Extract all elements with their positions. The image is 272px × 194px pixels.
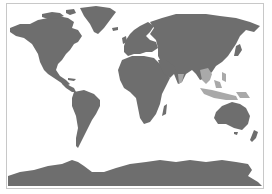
tasmania: [234, 132, 238, 135]
antarctica: [8, 160, 262, 186]
british-isles: [112, 27, 127, 44]
arctic-islands: [42, 9, 76, 19]
greenland: [80, 6, 116, 34]
south-america: [72, 90, 100, 148]
world-map: [0, 0, 272, 194]
highlight-new-guinea: [236, 92, 250, 98]
japan: [234, 44, 242, 56]
europe: [124, 22, 158, 56]
north-america: [10, 16, 82, 86]
madagascar: [162, 104, 167, 116]
australia: [214, 102, 250, 130]
new-zealand: [250, 130, 258, 142]
